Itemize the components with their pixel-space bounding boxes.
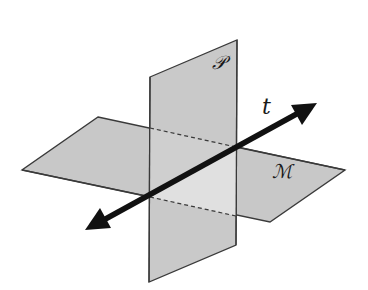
label-plane-p: 𝒫 [212, 53, 226, 72]
label-plane-m: ℳ [272, 162, 292, 181]
diagram-canvas: 𝒫 ℳ t [0, 0, 368, 290]
intersecting-planes-diagram [0, 0, 368, 290]
label-line-t: t [262, 96, 271, 118]
